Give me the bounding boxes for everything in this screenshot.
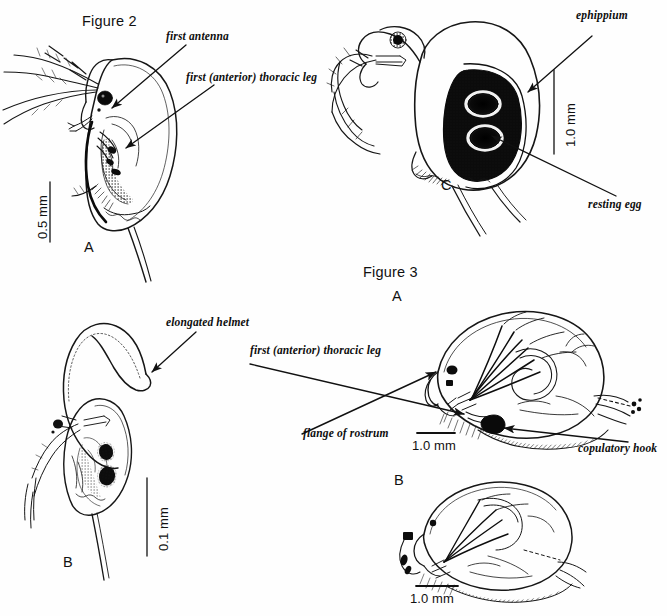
label-first-thoracic-leg-fig3: first (anterior) thoracic leg <box>250 345 381 357</box>
label-resting-egg: resting egg <box>588 199 642 211</box>
label-first-thoracic-leg-fig2: first (anterior) thoracic leg <box>186 72 317 84</box>
label-elongated-helmet: elongated helmet <box>166 317 249 329</box>
panel-letter-b-fig3: B <box>394 473 404 488</box>
figure3-panel-a-drawing <box>425 312 642 450</box>
panel-letter-b-fig2: B <box>63 555 73 570</box>
scale-label-10mm-f3b: 1.0 mm <box>410 592 454 605</box>
figure3-panel-b-drawing <box>399 482 586 602</box>
label-first-antenna: first antenna <box>166 31 229 43</box>
figure-3-title: Figure 3 <box>363 265 418 280</box>
label-flange-of-rostrum: flange of rostrum <box>303 428 389 440</box>
scale-label-10mm-c: 1.0 mm <box>564 103 577 147</box>
figure2b-leader <box>152 332 196 372</box>
figure2c-leaders <box>492 36 616 196</box>
panel-letter-c-fig2: C <box>441 178 451 193</box>
scale-label-10mm-f3a: 1.0 mm <box>412 439 456 452</box>
label-copulatory-hook: copulatory hook <box>578 443 657 455</box>
label-ephippium: ephippium <box>576 10 628 22</box>
figure2-panel-c-drawing <box>327 22 539 236</box>
figure2a-leaders <box>112 45 214 148</box>
panel-letter-a-fig3: A <box>392 289 402 304</box>
panel-letter-a-fig2: A <box>84 240 94 255</box>
figure-2-title: Figure 2 <box>82 14 137 29</box>
figure-plate: Figure 2 first antenna first (anterior) … <box>0 0 667 616</box>
illustration-artwork <box>0 0 667 616</box>
scale-label-01mm: 0.1 mm <box>157 507 170 551</box>
figure2-panel-b-drawing <box>25 324 151 580</box>
scale-label-05mm: 0.5 mm <box>36 195 49 239</box>
